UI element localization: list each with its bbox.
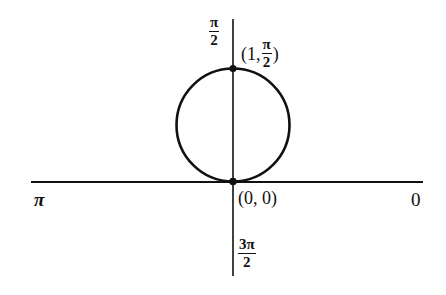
axis-label-right: 0	[411, 190, 421, 209]
axis-label-bottom-den: 2	[243, 254, 251, 270]
axis-label-left: π	[34, 190, 44, 209]
top-point-label-frac: π 2	[262, 37, 272, 70]
origin-point-label: (0, 0)	[238, 189, 277, 207]
top-point-label-open: (1,	[241, 45, 261, 63]
axis-label-bottom: 3π 2	[238, 237, 256, 270]
axis-label-bottom-num: 3π	[238, 237, 256, 254]
top-point-frac-num: π	[262, 37, 272, 54]
origin-point-dot	[229, 178, 237, 186]
top-point-label: (1, π 2 )	[241, 37, 279, 70]
top-point-dot	[229, 65, 236, 72]
top-point-frac-den: 2	[263, 54, 271, 70]
axis-label-top: π 2	[209, 15, 219, 48]
top-point-label-close: )	[273, 45, 279, 63]
axis-label-top-num: π	[209, 15, 219, 32]
axis-label-top-den: 2	[210, 32, 218, 48]
polar-diagram	[0, 0, 446, 295]
